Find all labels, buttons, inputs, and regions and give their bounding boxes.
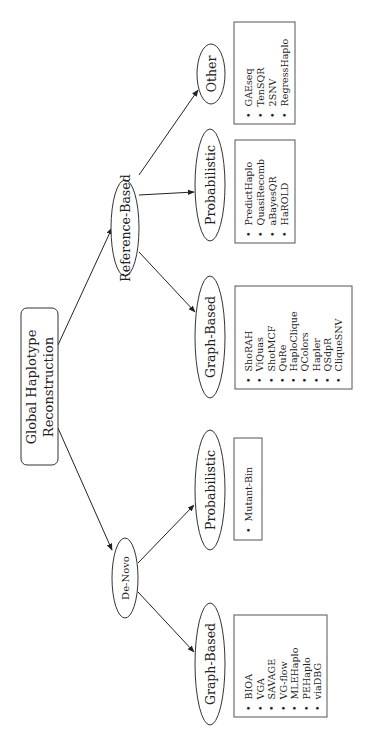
list-item: •PredictHaplo [243, 162, 254, 237]
reference-probabilistic-label: Probabilistic [203, 145, 218, 225]
edge-denovo-to-graph [138, 592, 194, 652]
reference-based-node: Reference-Based [111, 174, 139, 281]
list-item: •HaploClique [288, 311, 299, 383]
reference-graph-based-label: Graph-Based [203, 296, 218, 378]
reference-probabilistic-node: Probabilistic [195, 129, 225, 241]
reference-graph-based-list: •ShoRAH •ViQuas •ShotMCF •QuRe •HaploCli… [235, 286, 352, 389]
denovo-probabilistic-node: Probabilistic [195, 430, 225, 550]
edge-reference-to-graph [139, 252, 195, 312]
reference-graph-based-node: Graph-Based [195, 276, 225, 398]
edge-denovo-to-probabilistic [138, 505, 194, 563]
edge-reference-to-other [139, 90, 198, 175]
edge-root-to-denovo [58, 428, 112, 550]
list-item: •QuasiRecomb [255, 159, 266, 237]
reference-other-node: Other [197, 44, 225, 104]
de-novo-node: De-Novo [112, 538, 138, 618]
list-item: •RegressHaplo [279, 39, 290, 118]
list-item: •BIOA [243, 674, 254, 711]
edge-reference-to-probabilistic [139, 192, 194, 195]
denovo-graph-based-node: Graph-Based [195, 603, 225, 725]
root-label-line1: Global Haplotype [24, 329, 39, 444]
reference-other-list: •GAEseq •TenSQR •2SNV •RegressHaplo [234, 22, 295, 124]
haplotype-taxonomy-diagram: Global Haplotype Reconstruction Referenc… [0, 0, 365, 747]
root-node: Global Haplotype Reconstruction [21, 308, 58, 465]
denovo-graph-based-list: •BIOA •VGA •SAVAGE •VG-flow •MLEHaplo •P… [234, 615, 327, 717]
root-label-line2: Reconstruction [41, 336, 56, 437]
reference-based-label: Reference-Based [118, 174, 133, 281]
list-item: •VGA [255, 678, 266, 711]
de-novo-label: De-Novo [120, 556, 131, 600]
reference-probabilistic-list: •PredictHaplo •QuasiRecomb •aBayesQR •Ha… [235, 140, 295, 243]
edge-root-to-reference [58, 228, 112, 345]
denovo-probabilistic-list: •Mutant-Bin [234, 438, 262, 540]
reference-other-label: Other [204, 56, 219, 93]
denovo-graph-based-label: Graph-Based [203, 623, 218, 705]
denovo-probabilistic-label: Probabilistic [203, 450, 218, 530]
